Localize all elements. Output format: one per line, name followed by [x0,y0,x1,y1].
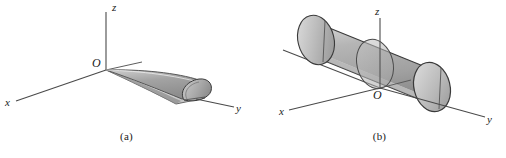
axis-z-label-a: z [111,1,117,13]
axis-x-label-a: x [4,96,10,108]
figure-panel-a: z x [0,0,253,158]
panel-a-canvas: z x [0,0,253,134]
panel-a-caption: (a) [0,130,253,142]
figure-plate: z x [0,0,506,158]
construction-edge-a [106,62,142,70]
axis-z-a: z [106,1,117,70]
axis-x-a: x [4,70,106,108]
origin-label-b: O [373,88,382,102]
origin-label-a: O [92,56,101,70]
panel-b-caption: (b) [253,130,506,142]
axis-y-label-a: y [235,102,241,114]
axis-x-label-b: x [278,105,284,117]
figure-panel-b: x [253,0,506,158]
axis-z-label-b: z [374,5,380,17]
axis-y-label-b: y [486,113,492,125]
panel-b-canvas: x [253,0,506,134]
